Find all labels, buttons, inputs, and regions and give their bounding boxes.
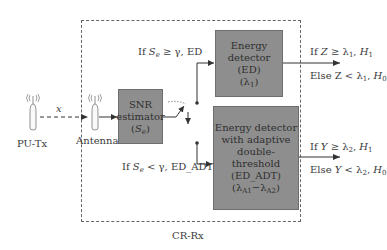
ed-adt-line-2: with adaptive [222,134,291,146]
ed-output-h1: If Z ≥ λ1, H1 [310,46,373,58]
branch-label-ed-adt: If Se < γ, ED_ADT [122,161,213,173]
ed-adt-block: Energy detector with adaptive double-thr… [213,106,299,210]
pu-tx-tower-icon [27,94,40,130]
pu-tx-label: PU-Tx [17,138,47,150]
snr-line-2: estimator [116,111,165,123]
snr-line-1: SNR [129,99,152,111]
ed-adt-threshold-symbol: (λA1−λA2) [232,182,280,194]
snr-symbol: (Se) [131,123,150,135]
ed-adt-line-4: (ED_ADT) [231,170,281,182]
antenna-label: Antenna [76,135,118,147]
ed-output-h0: Else Z < λ1, H0 [310,70,387,82]
ed-adt-output-h0: Else Y < λ2, H0 [310,164,386,176]
ed-adt-line-3: double-threshold [214,146,298,170]
signal-x-label: x [56,103,62,115]
ed-line-2: detector (ED) [216,52,282,76]
ed-adt-line-1: Energy detector [215,122,297,134]
antenna-tower-icon [89,94,102,130]
ed-threshold-symbol: (λ1) [240,76,259,88]
energy-detector-block: Energy detector (ED) (λ1) [215,30,283,97]
ed-adt-output-h1: If Y ≥ λ2, H1 [310,141,373,153]
branch-label-ed: If Se ≥ γ, ED [138,46,202,58]
ed-line-1: Energy [231,40,268,52]
snr-estimator-block: SNR estimator (Se) [118,89,163,144]
